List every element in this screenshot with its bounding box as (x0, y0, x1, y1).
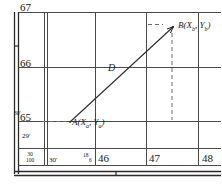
y-tick-label-65: 65 (20, 112, 31, 123)
point-label-a: A(Xa, Ya) (72, 118, 105, 129)
y-scale-fraction-denominator: 100 (20, 158, 40, 164)
y-scale-fraction: 30 100 (20, 152, 40, 164)
y-tick-label-67: 67 (20, 2, 31, 13)
point-label-b-mid: , Y (195, 20, 205, 30)
x-tick-label-47: 47 (149, 153, 160, 164)
x-minor-label-18: 18 (83, 153, 89, 159)
y-minor-label-29prime: 29' (22, 133, 30, 140)
x-tick-label-48: 48 (202, 153, 213, 164)
x-minor-label-30prime: 30' (49, 157, 57, 164)
point-marker-b (172, 26, 174, 28)
distance-label: D (108, 63, 115, 73)
point-label-a-prefix: A(X (72, 117, 86, 127)
point-label-b: B(Xb, Yb) (178, 21, 211, 32)
y-tick-label-66: 66 (20, 58, 31, 69)
survey-grid-figure: 67 66 30' 65 29' 30 100 30' 18 6 46 47 4… (0, 0, 222, 189)
x-minor-label-18-sub: 6 (89, 158, 92, 164)
point-label-b-close: ) (208, 20, 211, 30)
point-label-a-close: ) (102, 117, 105, 127)
point-marker-a (69, 121, 71, 123)
x-tick-label-46: 46 (98, 153, 109, 164)
distance-line-D (70, 27, 173, 122)
point-label-a-mid: , Y (89, 117, 99, 127)
point-label-b-prefix: B(X (178, 20, 192, 30)
